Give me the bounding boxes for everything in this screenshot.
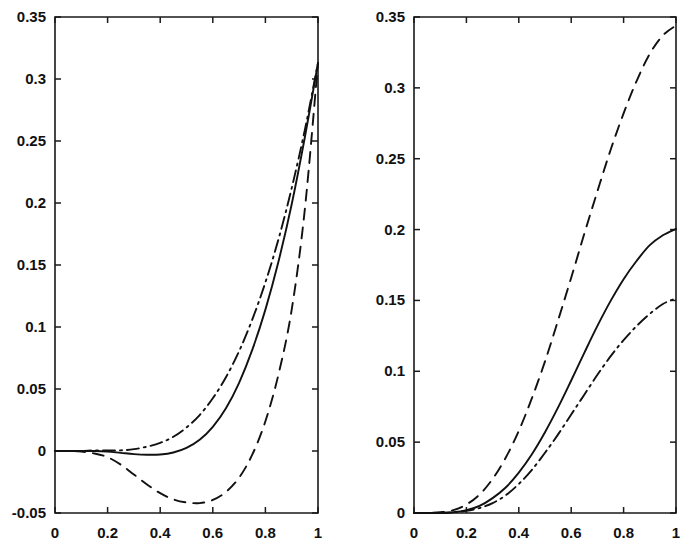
y-tick-label-8: 0.35 [17, 8, 46, 25]
y-tick-label-0: 0 [397, 504, 405, 521]
x-tick-label-4: 0.8 [255, 524, 276, 541]
y-tick-label-5: 0.2 [25, 194, 46, 211]
chart-panel-left: -0.0500.050.10.150.20.250.30.3500.20.40.… [0, 0, 348, 555]
y-tick-label-6: 0.25 [17, 132, 46, 149]
y-tick-label-7: 0.3 [25, 70, 46, 87]
x-tick-label-5: 1 [672, 524, 680, 541]
y-tick-label-4: 0.15 [17, 256, 46, 273]
x-tick-label-1: 0.2 [97, 524, 118, 541]
curve-dashdot [414, 298, 676, 513]
x-tick-label-4: 0.8 [613, 524, 634, 541]
x-tick-label-2: 0.4 [150, 524, 172, 541]
y-tick-label-6: 0.3 [384, 79, 405, 96]
curve-dashdot [55, 63, 318, 451]
y-tick-label-7: 0.35 [376, 8, 405, 25]
x-tick-label-0: 0 [51, 524, 59, 541]
curve-dashed [414, 26, 676, 514]
figure-canvas: -0.0500.050.10.150.20.250.30.3500.20.40.… [0, 0, 693, 555]
y-tick-label-2: 0.05 [17, 380, 46, 397]
x-tick-label-0: 0 [410, 524, 418, 541]
curve-solid [55, 63, 318, 455]
y-tick-label-4: 0.2 [384, 221, 405, 238]
curve-dashed [55, 63, 318, 503]
y-tick-label-0: -0.05 [12, 504, 46, 521]
x-tick-label-5: 1 [314, 524, 322, 541]
plot-right: 00.050.10.150.20.250.30.3500.20.40.60.81 [345, 0, 693, 555]
y-tick-label-3: 0.1 [25, 318, 46, 335]
x-tick-label-3: 0.6 [202, 524, 223, 541]
y-tick-label-1: 0.05 [376, 433, 405, 450]
y-tick-label-5: 0.25 [376, 150, 405, 167]
axes-box [414, 17, 676, 513]
y-tick-label-1: 0 [38, 442, 46, 459]
x-tick-label-1: 0.2 [456, 524, 477, 541]
y-tick-label-3: 0.15 [376, 291, 405, 308]
y-tick-label-2: 0.1 [384, 362, 405, 379]
curve-solid [414, 229, 676, 513]
plot-left: -0.0500.050.10.150.20.250.30.3500.20.40.… [0, 0, 348, 555]
x-tick-label-2: 0.4 [508, 524, 530, 541]
x-tick-label-3: 0.6 [561, 524, 582, 541]
chart-panel-right: 00.050.10.150.20.250.30.3500.20.40.60.81 [345, 0, 693, 555]
